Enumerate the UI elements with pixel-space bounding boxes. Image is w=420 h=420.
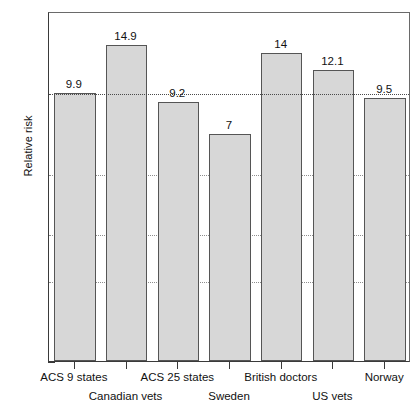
x-tick-mark <box>229 362 230 369</box>
x-tick-mark <box>281 362 282 369</box>
x-tick-mark <box>332 362 333 369</box>
bar <box>106 45 147 361</box>
bar-value-label: 14.9 <box>100 30 152 42</box>
x-tick-label: Canadian vets <box>89 390 163 402</box>
x-tick-label: Sweden <box>208 390 250 402</box>
x-tick-label: ACS 9 states <box>40 371 107 383</box>
x-tick-label: British doctors <box>244 371 317 383</box>
bar-value-label: 12.1 <box>307 55 359 67</box>
x-tick-label: US vets <box>312 390 352 402</box>
reference-line <box>49 94 409 95</box>
bar <box>313 70 354 361</box>
chart-figure: Relative risk 20105321 ACS 9 statesCanad… <box>0 0 420 420</box>
x-tick-mark <box>384 362 385 369</box>
bar <box>158 102 199 361</box>
bar <box>54 93 95 361</box>
bar-value-label: 9.2 <box>151 87 203 99</box>
bar <box>261 53 302 361</box>
bar-value-label: 9.5 <box>358 83 410 95</box>
x-tick-mark <box>126 362 127 369</box>
bar <box>364 98 405 361</box>
bar-value-label: 9.9 <box>48 78 100 90</box>
bar <box>209 134 250 361</box>
x-tick-label: Norway <box>365 371 404 383</box>
y-axis-title: Relative risk <box>22 66 34 226</box>
bar-value-label: 7 <box>203 119 255 131</box>
x-tick-mark <box>177 362 178 369</box>
y-tick-mark <box>48 362 55 363</box>
bar-value-label: 14 <box>255 38 307 50</box>
x-tick-mark <box>74 362 75 369</box>
x-tick-label: ACS 25 states <box>141 371 215 383</box>
